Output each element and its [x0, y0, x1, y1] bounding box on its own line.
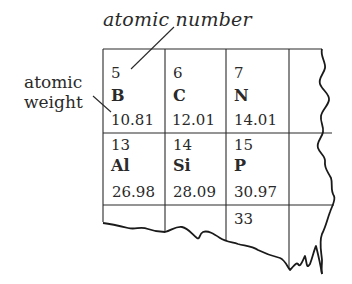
label-atomic-weight-line1: atomic	[24, 72, 83, 92]
cell-c-weight: 12.01	[172, 113, 215, 128]
cell-n-symbol: N	[234, 88, 249, 104]
cell-b-weight: 10.81	[111, 113, 154, 128]
leader-atomic-number	[131, 27, 174, 69]
cell-b-symbol: B	[111, 88, 125, 104]
label-atomic-weight-line2: weight	[24, 92, 83, 112]
cell-p-symbol: P	[234, 158, 246, 174]
cell-c-number: 6	[173, 66, 183, 81]
cell-p-number: 15	[234, 138, 253, 153]
cell-n-number: 7	[234, 66, 244, 81]
cell-al-number: 13	[111, 138, 130, 153]
cell-n-weight: 14.01	[234, 113, 277, 128]
cell-al-symbol: Al	[111, 158, 130, 174]
cell-si-weight: 28.09	[173, 185, 216, 200]
cell-si-number: 14	[173, 138, 192, 153]
cell-p-weight: 30.97	[234, 185, 277, 200]
label-atomic-weight: atomic weight	[24, 72, 83, 112]
torn-edge-right	[318, 49, 335, 274]
cell-c-symbol: C	[173, 88, 186, 104]
cell-al-weight: 26.98	[112, 185, 155, 200]
label-atomic-number: atomic number	[103, 10, 252, 29]
leader-atomic-weight	[93, 96, 111, 112]
cell-si-symbol: Si	[173, 158, 191, 174]
cell-33-number: 33	[234, 212, 253, 227]
cell-b-number: 5	[111, 66, 121, 81]
